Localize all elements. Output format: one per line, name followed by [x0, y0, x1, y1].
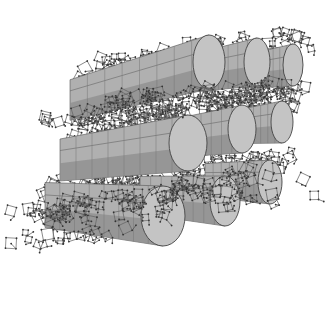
lattice-ring [231, 89, 240, 98]
lattice-ring [208, 101, 219, 112]
lattice-ring [23, 235, 33, 247]
lattice-ring [118, 52, 127, 61]
lattice-ring [309, 190, 325, 203]
lattice-ring [282, 149, 299, 167]
lattice-ring [298, 80, 312, 97]
channel-opening [141, 186, 185, 246]
channel-opening [193, 35, 225, 89]
framework-channel-illustration [0, 0, 329, 322]
lattice-ring [5, 237, 18, 250]
channel-cylinder [70, 35, 225, 120]
lattice-ring [63, 208, 70, 215]
lattice-ring [276, 86, 286, 96]
lattice-ring [286, 146, 297, 158]
lattice-ring [3, 204, 18, 222]
framework-diagram [0, 0, 329, 322]
lattice-ring [52, 115, 66, 130]
channel-opening [169, 115, 207, 171]
channel-opening [244, 38, 270, 86]
lattice-ring [22, 229, 35, 237]
lattice-ring [93, 50, 110, 66]
lattice-ring [295, 171, 311, 187]
lattice-ring [264, 96, 272, 104]
channel-opening [228, 105, 256, 153]
lattice-ring [272, 28, 282, 38]
channel-opening [271, 101, 293, 143]
lattice-ring [269, 40, 276, 47]
